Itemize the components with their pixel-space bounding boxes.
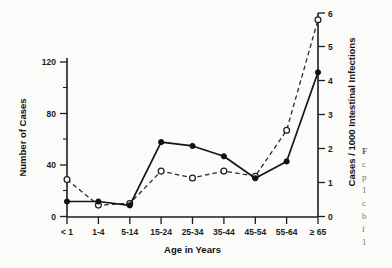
- data-point: [190, 143, 195, 148]
- data-point: [96, 199, 101, 204]
- x-tick-label-7: 55-64: [276, 227, 298, 237]
- y-left-tick-80: 80: [47, 109, 57, 119]
- chart-canvas: 0 40 80 120 0 1 2 3 4 5 6: [0, 0, 392, 268]
- y-axis-left-ticks: [60, 62, 67, 217]
- x-tick-label-8: ≥ 65: [310, 227, 327, 237]
- y-axis-right-tick-labels: 0 1 2 3 4 5 6: [328, 9, 333, 222]
- y-axis-right-title: Cases / 1000 Intestinal Infections: [346, 38, 357, 187]
- x-tick-label-6: 45-54: [244, 227, 266, 237]
- y-left-tick-40: 40: [47, 160, 57, 170]
- y-axis-left-tick-labels: 0 40 80 120: [42, 57, 56, 222]
- series-markers-dashed: [64, 17, 321, 208]
- y-right-tick-4: 4: [328, 76, 333, 86]
- y-axis-right-ticks: [318, 13, 325, 217]
- data-point: [190, 175, 196, 181]
- x-tick-label-2: 5-14: [121, 227, 138, 237]
- data-point: [221, 154, 226, 159]
- y-left-tick-120: 120: [42, 57, 56, 67]
- y-right-tick-6: 6: [328, 9, 333, 19]
- data-point: [284, 127, 290, 133]
- x-tick-label-4: 25-34: [182, 227, 204, 237]
- data-point: [253, 176, 258, 181]
- y-right-tick-2: 2: [328, 144, 333, 154]
- axis-lines: [67, 13, 318, 217]
- figure-panel: 0 40 80 120 0 1 2 3 4 5 6: [0, 0, 392, 268]
- x-tick-label-0: < 1: [61, 227, 73, 237]
- y-axis-left-title: Number of Cases: [17, 98, 28, 176]
- data-point: [221, 168, 227, 174]
- x-axis-ticks: [67, 217, 318, 224]
- y-right-tick-0: 0: [328, 212, 333, 222]
- data-point: [158, 168, 164, 174]
- x-axis-tick-labels: < 1 1-4 5-14 15-24 25-34 35-44 45-54 55-…: [61, 227, 327, 237]
- data-point: [127, 203, 132, 208]
- x-tick-label-3: 15-24: [150, 227, 172, 237]
- x-tick-label-1: 1-4: [92, 227, 105, 237]
- y-left-tick-0: 0: [51, 212, 56, 222]
- data-point: [315, 70, 320, 75]
- x-tick-label-5: 35-44: [213, 227, 235, 237]
- y-right-tick-5: 5: [328, 42, 333, 52]
- series-markers-solid: [64, 70, 320, 208]
- data-point: [64, 199, 69, 204]
- data-point: [64, 177, 70, 183]
- data-point: [315, 17, 321, 23]
- y-right-tick-3: 3: [328, 110, 333, 120]
- y-right-tick-1: 1: [328, 178, 333, 188]
- data-point: [284, 159, 289, 164]
- data-point: [159, 139, 164, 144]
- x-axis-title: Age in Years: [164, 244, 221, 255]
